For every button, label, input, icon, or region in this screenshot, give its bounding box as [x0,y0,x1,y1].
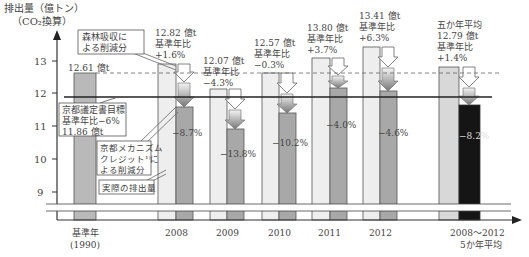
x-label-base-year: (1990) [70,240,100,250]
svg-text:基準年比: 基準年比 [437,41,473,52]
svg-text:京都メカニズム: 京都メカニズム [100,143,163,153]
x-label-avg: 2008～2012 [450,228,505,238]
pct-avg: −8.2% [459,131,490,141]
bar-avg-actual [439,67,459,220]
arrow-2008 [174,64,194,107]
svg-text:実際の排出量: 実際の排出量 [102,183,156,193]
y-tick-10: 10 [34,154,47,165]
pct-2008: −8.7% [172,128,203,138]
svg-text:基準年比−6%: 基準年比−6% [62,115,120,126]
bar-avg-reduced [459,105,480,220]
bar-base-year [74,73,96,220]
svg-text:−0.3%: −0.3% [254,60,285,70]
svg-text:基準年比: 基準年比 [155,38,191,49]
svg-text:12.57 億t: 12.57 億t [254,37,296,48]
svg-text:基準年比: 基準年比 [254,48,290,59]
y-tick-12: 12 [34,88,47,99]
bar-2011-reduced [330,88,347,220]
arrow-2010 [277,73,297,113]
svg-text:12.82 億t: 12.82 億t [155,27,197,38]
pct-2010: −10.2% [272,138,309,148]
y-axis-label-unit: （CO₂換算） [12,15,72,27]
bar-2008-reduced [176,107,193,220]
svg-text:よる削減分: よる削減分 [82,42,127,53]
svg-text:森林吸収に: 森林吸収に [82,31,127,42]
svg-text:+3.7%: +3.7% [307,45,338,55]
svg-text:基準年比: 基準年比 [359,21,395,32]
arrow-2009 [225,89,245,129]
callout-target: 京都議定書目標 基準年比−6% 11.86 億t [59,97,126,137]
x-label-2012: 2012 [369,228,392,238]
x-label-2008: 2008 [165,228,188,238]
svg-text:13.41 億t: 13.41 億t [359,10,401,21]
emissions-chart: 排出量（億トン） （CO₂換算） 13 12 11 10 9 [0,0,529,257]
bar-2012-reduced [380,91,397,220]
pct-2012: −4.6% [378,128,409,138]
y-tick-13: 13 [34,56,47,67]
x-label-avg-sub: 5か年平均 [460,239,502,250]
pct-2011: −4.0% [326,120,357,130]
label-2010: 12.57 億t 基準年比 −0.3% [254,37,296,70]
y-tick-9: 9 [37,187,43,198]
pct-2009: −13.8% [220,149,257,159]
arrow-2012 [378,47,398,91]
y-axis: 13 12 11 10 9 [34,30,61,220]
label-2008: 12.82 億t 基準年比 +1.6% [155,27,197,60]
x-label-2009: 2009 [216,228,239,238]
svg-text:よる削減分: よる削減分 [100,165,145,175]
svg-text:+1.6%: +1.6% [155,50,186,60]
svg-text:クレジット¹⁾に: クレジット¹⁾に [100,154,160,164]
bar-2008-actual [158,64,176,220]
svg-text:基準年比: 基準年比 [203,66,239,77]
x-label-base: 基準年 [72,227,99,238]
x-labels: 基準年 (1990) 2008 2009 2010 2011 2012 2008… [70,227,505,250]
y-tick-11: 11 [34,121,47,132]
label-2012: 13.41 億t 基準年比 +6.3% [359,10,401,43]
svg-text:13.80 億t: 13.80 億t [307,22,349,33]
label-base: 12.61 億t [68,62,110,73]
svg-text:−4.3%: −4.3% [203,78,234,88]
svg-text:基準年比: 基準年比 [307,33,343,44]
label-avg: 五か年平均 12.79 億t 基準年比 +1.4% [437,19,482,63]
y-axis-label: 排出量（億トン） [4,2,84,14]
bar-2011-actual [312,58,330,220]
x-label-2011: 2011 [318,228,341,238]
svg-text:11.86 億t: 11.86 億t [62,126,104,137]
svg-text:五か年平均: 五か年平均 [437,19,482,30]
x-label-2010: 2010 [268,228,291,238]
svg-text:京都議定書目標: 京都議定書目標 [62,104,125,115]
svg-text:12.07 億t: 12.07 億t [203,55,245,66]
svg-text:+6.3%: +6.3% [359,33,390,43]
label-2009: 12.07 億t 基準年比 −4.3% [203,55,245,88]
svg-text:+1.4%: +1.4% [437,53,468,63]
svg-text:12.79 億t: 12.79 億t [437,30,479,41]
label-2011: 13.80 億t 基準年比 +3.7% [307,22,349,55]
